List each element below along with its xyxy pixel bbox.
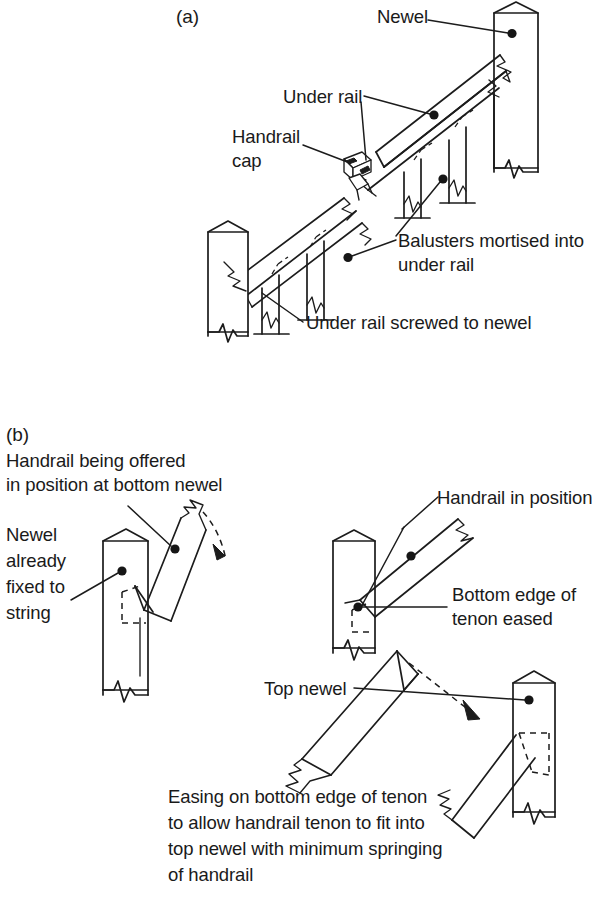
leader-dot-newel-fixed <box>117 566 126 575</box>
leader-dot-tenon-eased <box>353 602 362 611</box>
section-b-left-drawing <box>71 500 226 702</box>
label-newel-fixed-line3: fixed to <box>6 576 65 598</box>
leader-dot-under-rail <box>429 110 438 119</box>
caption-line-2: to allow handrail tenon to fit into <box>168 812 425 834</box>
newel-post-b-right <box>513 671 555 824</box>
leader-dot-handrail-offered <box>170 544 179 553</box>
label-handrail-cap-line2: cap <box>232 150 262 172</box>
label-balusters-line1: Balusters mortised into <box>398 230 584 252</box>
newel-post-b-middle <box>333 530 375 660</box>
newel-post-b-left <box>103 529 148 702</box>
label-newel: Newel <box>377 6 428 28</box>
label-handrail-offered-line1: Handrail being offered <box>6 450 186 472</box>
motion-arrow-b-left <box>203 512 226 560</box>
section-label-b: (b) <box>6 424 29 447</box>
handrail-springing-position <box>286 651 418 793</box>
label-bottom-edge-line2: tenon eased <box>452 608 553 630</box>
label-under-rail-screwed: Under rail screwed to newel <box>306 312 532 334</box>
motion-arrow-b-right <box>409 663 480 720</box>
label-newel-fixed-line4: string <box>6 602 51 624</box>
newel-post-bottom-a <box>208 221 248 342</box>
label-newel-fixed-line2: already <box>6 550 66 572</box>
leader-dot-top-newel <box>524 695 533 704</box>
label-under-rail: Under rail <box>283 86 362 108</box>
label-balusters-line2: under rail <box>398 254 474 276</box>
label-handrail-in-position: Handrail in position <box>437 487 592 509</box>
upper-rail-assembly <box>357 55 511 218</box>
section-b-middle-drawing <box>333 497 473 660</box>
technical-diagram-figure: (a) Newel Under rail Handrail cap Balust… <box>0 0 603 913</box>
label-newel-fixed-line1: Newel <box>6 524 57 546</box>
caption-line-1: Easing on bottom edge of tenon <box>168 786 427 808</box>
leader-dot-handrail-in-position <box>406 551 415 560</box>
leader-lines-section-a <box>262 20 517 322</box>
label-handrail-offered-line2: in position at bottom newel <box>6 474 222 496</box>
label-top-newel: Top newel <box>264 678 346 700</box>
caption-line-3: top newel with minimum springing <box>168 838 442 860</box>
caption-line-4: of handrail <box>168 864 253 886</box>
leader-dot-baluster <box>343 253 352 262</box>
leader-dot-baluster-upper <box>438 174 447 183</box>
newel-post-top <box>494 2 538 178</box>
label-bottom-edge-line1: Bottom edge of <box>452 584 576 606</box>
handrail-cap-detail <box>344 152 372 200</box>
leader-dot-newel <box>507 29 516 38</box>
section-label-a: (a) <box>176 6 199 29</box>
label-handrail-cap-line1: Handrail <box>232 126 300 148</box>
